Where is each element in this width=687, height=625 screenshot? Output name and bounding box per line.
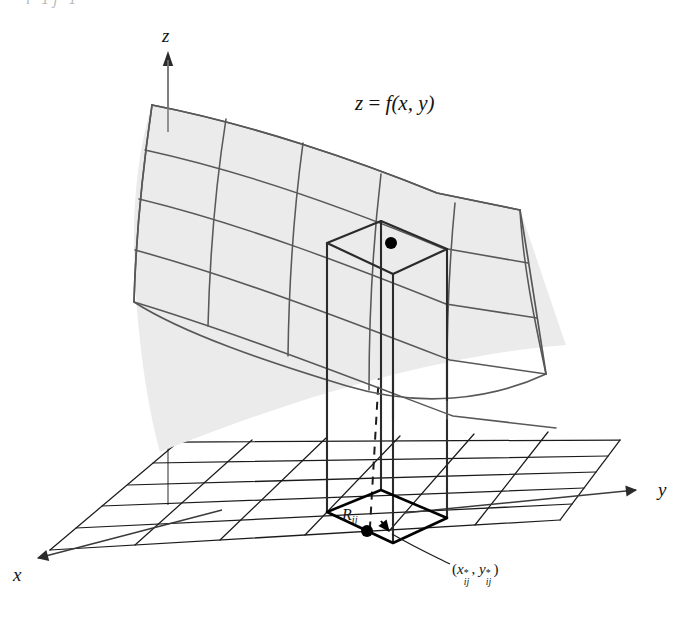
point-comma: , (471, 561, 479, 577)
sample-point-pointer (381, 521, 389, 531)
equation-args: (x, y) (391, 91, 434, 115)
equation-z: z (355, 91, 363, 115)
cropped-summation-label: i=1 j=1 (26, 0, 76, 7)
surface-patch (134, 105, 575, 470)
surface-sample-dot (385, 237, 397, 249)
surface-mesh-fill (134, 105, 566, 452)
point-x: x (457, 561, 464, 577)
sample-point-label: (x*ij, y*ij) (452, 562, 498, 577)
diagram-svg (0, 0, 687, 625)
x-axis-label: x (13, 565, 21, 584)
sample-point-leader (392, 534, 450, 564)
equation-equals: = (363, 91, 385, 115)
rectangle-base: R (342, 506, 352, 523)
surface-equation-label: z = f(x, y) (355, 93, 435, 114)
paren-close: ) (493, 561, 498, 577)
x-axis (38, 510, 222, 558)
rectangle-subscript: ij (352, 514, 358, 525)
z-axis-label: z (162, 26, 169, 45)
point-y-sub: ij (486, 577, 492, 587)
rectangle-label: Rij (342, 507, 358, 525)
point-y: y (479, 561, 486, 577)
figure-canvas: z y x z = f(x, y) Rij (x*ij, y*ij) i=1 j… (0, 0, 687, 625)
base-sample-dot (361, 525, 373, 537)
point-x-sub: ij (464, 577, 470, 587)
y-axis-label: y (658, 480, 666, 499)
